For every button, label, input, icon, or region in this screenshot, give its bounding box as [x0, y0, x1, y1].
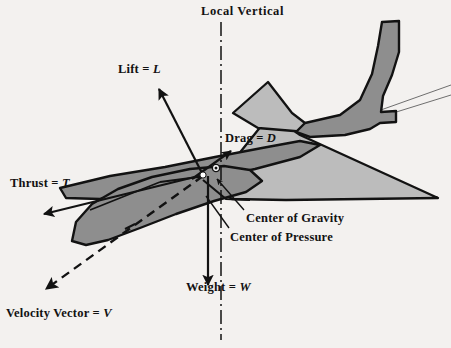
- vertical-fin-shape: [296, 21, 399, 137]
- center-of-gravity-label: Center of Gravity: [246, 212, 344, 225]
- local-vertical-label: Local Vertical: [201, 5, 284, 18]
- weight-label-text: Weight =: [186, 280, 239, 294]
- drag-symbol: D: [267, 131, 276, 145]
- diagram-canvas: [0, 0, 451, 348]
- center-of-pressure-marker: [200, 172, 206, 178]
- lift-symbol: L: [153, 62, 161, 76]
- lift-label-text: Lift =: [118, 62, 153, 76]
- velocity-vector-label: Velocity Vector = V: [6, 307, 112, 320]
- thrust-symbol: T: [62, 176, 70, 190]
- drag-label-text: Drag =: [225, 131, 267, 145]
- lift-vector: [159, 89, 203, 175]
- center-of-pressure-label: Center of Pressure: [230, 231, 333, 244]
- weight-symbol: W: [239, 280, 250, 294]
- weight-label: Weight = W: [186, 281, 251, 294]
- lift-label: Lift = L: [118, 63, 161, 76]
- velocity-label-text: Velocity Vector =: [6, 306, 103, 320]
- drag-label: Drag = D: [225, 132, 276, 145]
- aircraft-forces-diagram: Local Vertical Lift = L Drag = D Thrust …: [0, 0, 451, 348]
- center-of-gravity-marker-dot: [215, 167, 218, 170]
- thrust-label: Thrust = T: [10, 177, 70, 190]
- velocity-symbol: V: [103, 306, 112, 320]
- thrust-label-text: Thrust =: [10, 176, 62, 190]
